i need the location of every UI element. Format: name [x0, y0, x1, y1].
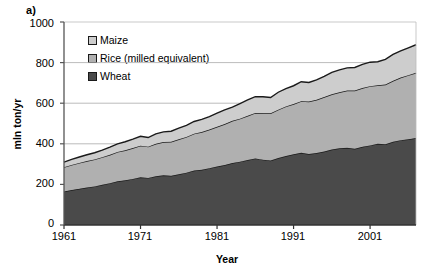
stacked-area-plot: [0, 0, 444, 277]
figure-panel-a: a) mln ton/yr Year 1000 800 600 400 200 …: [0, 0, 444, 277]
